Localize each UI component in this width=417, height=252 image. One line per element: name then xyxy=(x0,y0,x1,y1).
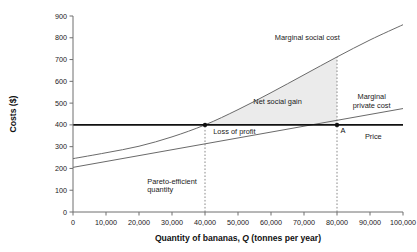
marginal-private-cost-line2: private cost xyxy=(353,101,391,110)
y-tick-label: 900 xyxy=(55,12,67,21)
x-tick-label: 40,000 xyxy=(194,218,216,227)
point-a-label: A xyxy=(341,126,346,135)
y-tick-label: 500 xyxy=(55,99,67,108)
x-tick-label: 20,000 xyxy=(128,218,150,227)
x-tick-label: 0 xyxy=(71,218,75,227)
x-tick-label: 90,000 xyxy=(359,218,381,227)
marginal-private-cost-line1: Marginal xyxy=(357,92,386,101)
x-tick-label: 80,000 xyxy=(326,218,348,227)
curves-layer xyxy=(73,25,403,168)
x-tick-label: 100,000 xyxy=(390,218,416,227)
y-tick-label: 700 xyxy=(55,55,67,64)
net-social-gain-label: Net social gain xyxy=(253,97,301,106)
loss-of-profit-label: Loss of profit xyxy=(213,127,255,136)
y-tick-label: 200 xyxy=(55,164,67,173)
price-label: Price xyxy=(365,132,382,141)
y-tick-label: 0 xyxy=(63,208,67,217)
x-tick-label: 50,000 xyxy=(227,218,249,227)
marginal-social-cost-label: Marginal social cost xyxy=(275,33,340,42)
y-tick-label: 600 xyxy=(55,77,67,86)
x-tick-label: 30,000 xyxy=(161,218,183,227)
x-tick-label: 60,000 xyxy=(260,218,282,227)
x-tick-label: 70,000 xyxy=(293,218,315,227)
y-axis-title: Costs ($) xyxy=(8,95,18,132)
pareto-efficient-line2: quantity xyxy=(147,185,173,194)
x-tick-label: 10,000 xyxy=(95,218,117,227)
point-a xyxy=(335,123,339,127)
y-tick-label: 300 xyxy=(55,142,67,151)
pareto-efficient-point xyxy=(203,123,207,127)
series-marginal-social-cost xyxy=(73,25,403,159)
y-tick-label: 100 xyxy=(55,186,67,195)
x-axis-title: Quantity of bananas, Q (tonnes per year) xyxy=(155,233,321,243)
y-tick-label: 800 xyxy=(55,33,67,42)
chart-svg: 0100200300400500600700800900010,00020,00… xyxy=(0,0,417,252)
economics-chart: 0100200300400500600700800900010,00020,00… xyxy=(0,0,417,252)
y-tick-label: 400 xyxy=(55,120,67,129)
